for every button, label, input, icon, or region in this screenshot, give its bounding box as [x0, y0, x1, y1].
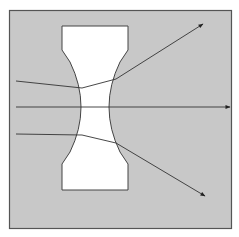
concave-lens-diagram — [0, 0, 239, 237]
